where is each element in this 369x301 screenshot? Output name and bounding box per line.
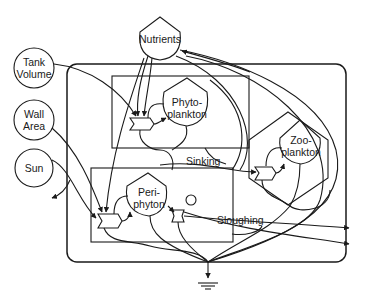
sloughing-label: Sloughing <box>217 214 264 226</box>
peri-interaction <box>98 214 122 228</box>
small-source <box>186 195 196 205</box>
zoo-interaction <box>255 167 276 180</box>
sinking-label: Sinking <box>186 155 220 167</box>
wall-area-label: Wall Area <box>14 108 54 132</box>
tank-volume-label: Tank Volume <box>14 56 54 80</box>
zooplankton-label: Zoo- plankton <box>276 134 326 158</box>
sun-label: Sun <box>14 162 54 174</box>
nutrients-label: Nutrients <box>136 33 184 45</box>
phyto-interaction <box>130 118 154 130</box>
zooplankton-hexagon <box>249 112 328 205</box>
phytoplankton-label: Phyto- plankton <box>162 96 212 120</box>
periphyton-label: Peri- phyton <box>124 186 174 210</box>
